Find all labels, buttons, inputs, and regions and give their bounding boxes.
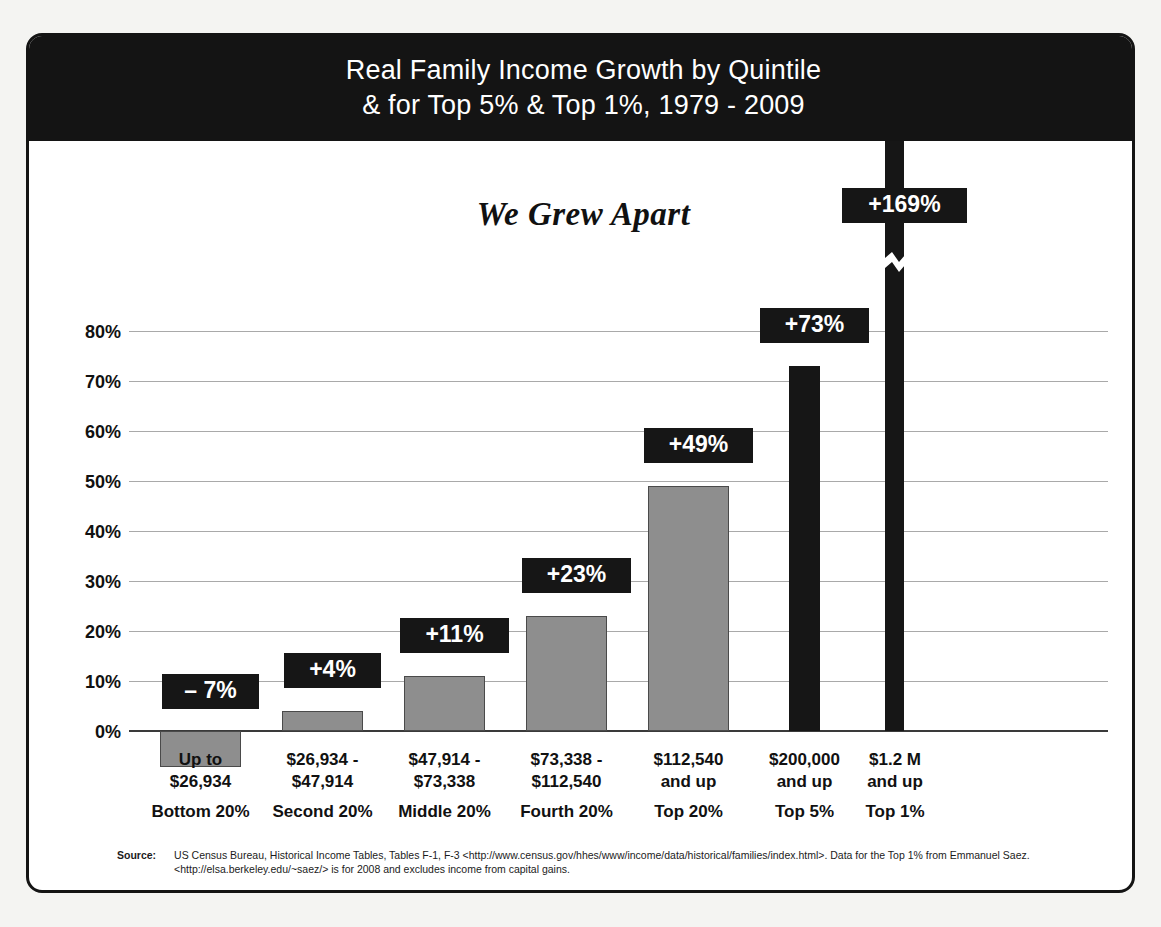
xgroup-label-middle-20: Middle 20% [389,802,500,822]
xcat-range-line1: $112,540 [633,749,744,771]
value-label-top-20: +49% [644,428,753,463]
xcat-range-second-20: $26,934 - $47,914 [267,749,378,793]
xcat-range-line1: $73,338 - [511,749,622,771]
chart-frame: 80% 70% 60% 50% 40% 30% 20% 10% 0% [26,33,1135,893]
xcat-range-line2: and up [851,771,939,793]
bar-second-20[interactable] [282,711,363,731]
xgroup-label-top-20: Top 20% [633,802,744,822]
title-line-1: Real Family Income Growth by Quintile [346,53,822,88]
xcat-range-line2: $47,914 [267,771,378,793]
xcat-range-top-5: $200,000 and up [749,749,860,793]
ytick-label-70: 70% [59,372,121,393]
axis-zero-line [129,730,1108,732]
plot-area: 80% 70% 60% 50% 40% 30% 20% 10% 0% [29,36,1135,893]
ytick-label-60: 60% [59,422,121,443]
title-line-2: & for Top 5% & Top 1%, 1979 - 2009 [362,88,805,123]
ytick-label-50: 50% [59,472,121,493]
xgroup-label-bottom-20: Bottom 20% [145,802,256,822]
bar-middle-20[interactable] [404,676,485,731]
xcat-range-line1: $200,000 [749,749,860,771]
gridline-80 [129,331,1108,332]
source-label: Source: [117,848,156,876]
xcat-range-line1: Up to [145,749,256,771]
xcat-range-top-20: $112,540 and up [633,749,744,793]
gridline-40 [129,531,1108,532]
chart-subtitle: We Grew Apart [29,196,1135,233]
value-label-middle-20: +11% [400,618,509,653]
bar-top-20[interactable] [648,486,729,731]
chart-page: 80% 70% 60% 50% 40% 30% 20% 10% 0% [0,0,1161,927]
value-label-top-5: +73% [760,308,869,343]
xcat-range-bottom-20: Up to $26,934 [145,749,256,793]
value-label-top-1: +169% [842,188,967,223]
xcat-range-line2: $73,338 [389,771,500,793]
bar-fourth-20[interactable] [526,616,607,731]
xcat-range-line1: $47,914 - [389,749,500,771]
xgroup-label-top-5: Top 5% [749,802,860,822]
gridline-20 [129,631,1108,632]
gridline-60 [129,431,1108,432]
xcat-range-fourth-20: $73,338 - $112,540 [511,749,622,793]
gridline-50 [129,481,1108,482]
xcat-range-line2: and up [749,771,860,793]
xgroup-label-second-20: Second 20% [267,802,378,822]
xcat-range-line2: and up [633,771,744,793]
ytick-label-40: 40% [59,522,121,543]
xcat-range-line1: $26,934 - [267,749,378,771]
ytick-label-0: 0% [59,722,121,743]
title-band: Real Family Income Growth by Quintile & … [28,35,1135,141]
xcat-range-top-1: $1.2 M and up [851,749,939,793]
gridline-70 [129,381,1108,382]
value-label-bottom-20: – 7% [162,674,259,709]
xgroup-label-top-1: Top 1% [851,802,939,822]
xcat-range-middle-20: $47,914 - $73,338 [389,749,500,793]
bar-top-5[interactable] [789,366,820,731]
source-footnote: Source: US Census Bureau, Historical Inc… [117,848,1077,876]
xcat-range-line2: $112,540 [511,771,622,793]
xcat-range-line2: $26,934 [145,771,256,793]
axis-break-icon [879,242,911,276]
xcat-range-line1: $1.2 M [851,749,939,771]
ytick-label-20: 20% [59,622,121,643]
value-label-fourth-20: +23% [522,558,631,593]
xgroup-label-fourth-20: Fourth 20% [511,802,622,822]
value-label-second-20: +4% [284,653,381,688]
source-text: US Census Bureau, Historical Income Tabl… [174,848,1077,876]
ytick-label-10: 10% [59,672,121,693]
gridline-10 [129,681,1108,682]
ytick-label-80: 80% [59,322,121,343]
ytick-label-30: 30% [59,572,121,593]
